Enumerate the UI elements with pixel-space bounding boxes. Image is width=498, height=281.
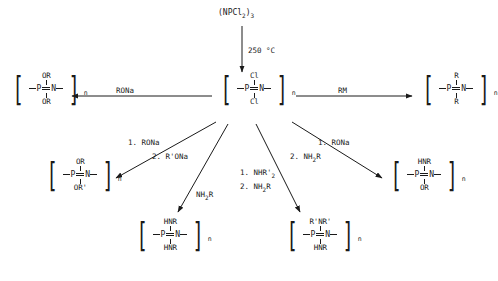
bond-left-stub (63, 174, 70, 175)
bracket-close-icon: ] (343, 220, 354, 250)
bond-right-stub (330, 234, 337, 235)
atom-phosphorus: P (446, 85, 451, 93)
repeat-unit-n: n (292, 90, 296, 97)
structure-mid-left-core: OR P N OR' (62, 158, 98, 191)
substituent-top: OR (76, 158, 85, 166)
structure-right-polyalkylphosphazene: [ R P N R ] n (418, 72, 498, 105)
bracket-open-icon: [ (391, 160, 402, 190)
substituent-bottom: HNR (164, 244, 177, 252)
bond-right-stub (180, 234, 187, 235)
substituent-bottom: HNR (314, 244, 327, 252)
atom-phosphorus: P (310, 231, 315, 239)
bond-left-stub (407, 174, 414, 175)
reagent-label-bottom-center-step2: 2. NH2R (240, 182, 271, 191)
backbone: P N (439, 85, 473, 93)
bond-right-stub (90, 174, 97, 175)
bond-right-stub (434, 174, 441, 175)
structure-bottom-left-diamino: [ HNR P N HNR ] n (132, 218, 212, 251)
reactant-formula-sub2: 3 (251, 12, 255, 19)
structure-mid-right-amino-alkoxy: [ HNR P N OR ] n (386, 158, 466, 191)
reagent-mr-step2-tail: R (316, 152, 321, 161)
reactant-formula-mid: ) (246, 8, 251, 17)
reagent-label-bottom-center-step1: 1. NHR'2 (240, 168, 275, 177)
reagent-label-bottom-left: NH2R (196, 190, 213, 199)
reactant-formula: (NPCl2)3 (218, 8, 254, 17)
substituent-bottom: OR' (74, 184, 87, 192)
structure-mid-right-core: HNR P N OR (406, 158, 442, 191)
bracket-close-icon: ] (69, 74, 80, 104)
double-bond-icon (42, 87, 50, 91)
condition-temperature: 250 °C (248, 46, 275, 55)
structure-center-core: Cl P N Cl (236, 72, 272, 105)
substituent-top: Cl (250, 72, 259, 80)
repeat-unit-n: n (462, 176, 466, 183)
bracket-open-icon: [ (13, 74, 24, 104)
backbone: P N (407, 171, 441, 179)
atom-phosphorus: P (36, 85, 41, 93)
structure-mid-left-mixed-alkoxy: [ OR P N OR' ] n (42, 158, 122, 191)
bond-left-stub (153, 234, 160, 235)
atom-phosphorus: P (70, 171, 75, 179)
repeat-unit-n: n (84, 90, 88, 97)
structure-left-core: OR P N OR (28, 72, 64, 105)
bracket-close-icon: ] (277, 74, 288, 104)
reagent-label-mid-left-step2: 2. R'ONa (152, 152, 188, 161)
backbone: P N (303, 231, 337, 239)
bracket-open-icon: [ (287, 220, 298, 250)
reagent-label-mid-right-step2: 2. NH2R (290, 152, 321, 161)
double-bond-icon (316, 233, 324, 237)
reagent-bc-step2-text: 2. NH (240, 182, 263, 191)
atom-phosphorus: P (414, 171, 419, 179)
backbone: P N (63, 171, 97, 179)
reactant-formula-main: (NPCl (218, 8, 242, 17)
reagent-mr-step2-sub: 2 (313, 156, 317, 163)
bracket-open-icon: [ (221, 74, 232, 104)
substituent-top: HNR (418, 158, 431, 166)
backbone: P N (29, 85, 63, 93)
repeat-unit-n: n (494, 90, 498, 97)
reactant-formula-sub1: 2 (242, 12, 246, 19)
bond-left-stub (29, 88, 36, 89)
bond-left-stub (439, 88, 446, 89)
reagent-bc-step1-sub: 2 (272, 172, 276, 179)
substituent-bottom: R (454, 98, 458, 106)
substituent-top: HNR (164, 218, 177, 226)
substituent-top: OR (42, 72, 51, 80)
bracket-close-icon: ] (447, 160, 458, 190)
arrow-branch-mid-left (116, 122, 216, 178)
bond-right-stub (264, 88, 271, 89)
double-bond-icon (250, 87, 258, 91)
reagent-mr-step2-text: 2. NH (290, 152, 313, 161)
structure-bottom-right-core: R'NR' P N HNR (302, 218, 338, 251)
reagent-bottom-left-tail: R (209, 190, 214, 199)
double-bond-icon (452, 87, 460, 91)
bracket-close-icon: ] (193, 220, 204, 250)
arrow-branch-mid-right (292, 122, 382, 178)
bracket-open-icon: [ (137, 220, 148, 250)
double-bond-icon (166, 233, 174, 237)
reagent-label-left: RONa (116, 86, 134, 95)
structure-right-core: R P N R (438, 72, 474, 105)
atom-phosphorus: P (244, 85, 249, 93)
reagent-bottom-left-text: NH (196, 190, 205, 199)
structure-bottom-left-core: HNR P N HNR (152, 218, 188, 251)
double-bond-icon (76, 173, 84, 177)
bond-left-stub (303, 234, 310, 235)
structure-bottom-right-mixed-amino: [ R'NR' P N HNR ] n (282, 218, 362, 251)
structure-left-polyaryloxyphosphazene: [ OR P N OR ] n (8, 72, 88, 105)
reagent-label-mid-left-step1: 1. RONa (128, 138, 160, 147)
repeat-unit-n: n (208, 236, 212, 243)
backbone: P N (237, 85, 271, 93)
atom-phosphorus: P (160, 231, 165, 239)
bond-right-stub (466, 88, 473, 89)
bond-left-stub (237, 88, 244, 89)
bracket-open-icon: [ (47, 160, 58, 190)
bracket-close-icon: ] (103, 160, 114, 190)
bracket-close-icon: ] (479, 74, 490, 104)
bond-right-stub (56, 88, 63, 89)
repeat-unit-n: n (358, 236, 362, 243)
backbone: P N (153, 231, 187, 239)
double-bond-icon (420, 173, 428, 177)
